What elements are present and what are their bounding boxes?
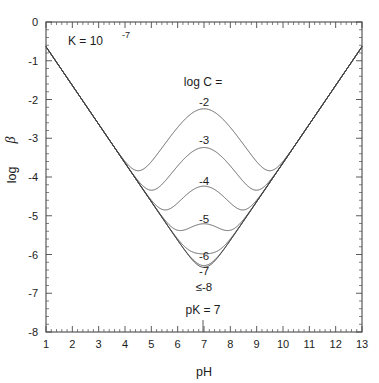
x-tick-label: 1 [43,338,49,350]
curve-logC--3 [46,47,362,191]
curve-label--4: -4 [199,175,210,187]
curve-label--7: -7 [199,265,209,277]
y-axis-title-symbol: β [3,136,18,144]
x-tick-label: 6 [175,338,181,350]
x-tick-label: 13 [356,338,368,350]
y-tick-label: -2 [28,94,38,106]
x-tick-label: 10 [277,338,289,350]
curve-label--6: -6 [199,250,209,262]
curve-logC--2 [46,47,362,171]
x-tick-label: 4 [122,338,128,350]
pk-marker-label: pK = 7 [185,303,220,317]
x-tick-label: 3 [96,338,102,350]
equilibrium-constant-exponent: -7 [122,30,130,40]
x-tick-label: 7 [201,338,207,350]
x-tick-label: 5 [148,338,154,350]
curve-label-le-8: ≤-8 [196,281,213,293]
x-tick-label: 9 [254,338,260,350]
x-tick-label: 11 [304,338,315,350]
y-tick-label: -5 [28,210,38,222]
x-axis-title: pH [196,365,212,379]
y-axis-title-prefix: log [5,167,19,184]
y-tick-label: -1 [28,55,38,67]
curve-label--3: -3 [199,134,209,146]
curve-label--2: -2 [199,96,209,108]
pk-marker: pK = 7 [185,303,220,332]
x-tick-label: 8 [227,338,233,350]
y-tick-label: -4 [28,171,38,183]
y-axis-title: log β [3,136,19,183]
x-tick-label: 12 [330,338,342,350]
buffer-capacity-plot: 12345678910111213 0-1-2-3-4-5-6-7-8 pH l… [0,0,379,383]
equilibrium-constant-text: K = 10 [68,34,103,48]
equilibrium-constant-annotation: K = 10 -7 [68,30,130,48]
y-tick-label: -8 [28,326,38,338]
x-tick-label: 2 [69,338,75,350]
y-tick-label: 0 [32,16,38,28]
y-tick-label: -7 [28,287,38,299]
chart-figure: 12345678910111213 0-1-2-3-4-5-6-7-8 pH l… [0,0,379,383]
curve-label--5: -5 [199,213,209,225]
y-tick-label: -6 [28,249,38,261]
legend-title: log C = [184,75,222,89]
y-tick-label: -3 [28,132,38,144]
